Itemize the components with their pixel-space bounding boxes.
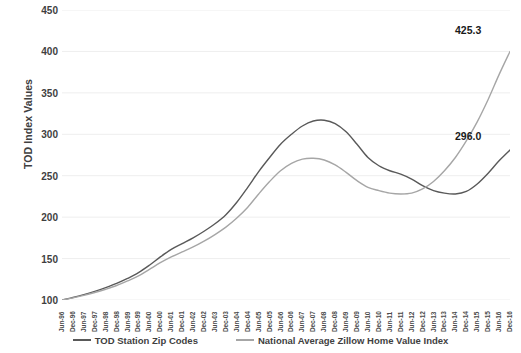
y-axis-tick: 100 [26,295,58,306]
x-axis-tick: Jun-13 [430,312,437,332]
x-axis-tick: Jun-96 [58,312,65,332]
x-axis-tick: Jun-02 [189,312,196,332]
x-axis-tick: Jun-11 [386,312,393,332]
x-axis-tick: Jun-12 [408,312,415,332]
x-axis-tick: Dec-07 [309,311,316,332]
x-axis-tick: Jun-97 [80,312,87,332]
x-axis-tick: Dec-10 [375,311,382,332]
y-axis-tick: 400 [26,46,58,57]
x-axis-tick: Dec-98 [113,311,120,332]
x-axis-tick: Dec-05 [266,311,273,332]
x-axis-tick: Dec-15 [484,311,491,332]
gridlines [62,10,510,300]
x-axis-tick: Dec-08 [331,311,338,332]
legend-item-tod[interactable]: TOD Station Zip Codes [73,335,198,346]
x-axis-tick: Dec-12 [419,311,426,332]
y-axis-tick: 300 [26,129,58,140]
x-axis-tick: Jun-08 [320,312,327,332]
y-axis-tick: 250 [26,170,58,181]
x-axis-tick: Jun-03 [211,312,218,332]
legend-label-national: National Average Zillow Home Value Index [258,335,448,346]
y-axis-tick: 450 [26,5,58,16]
tod-end-value-label: 425.3 [455,24,481,36]
x-axis-tick: Jun-07 [298,312,305,332]
x-axis-tick: Jun-06 [277,312,284,332]
x-axis-tick: Jun-10 [364,312,371,332]
x-axis-tick: Dec-13 [440,311,447,332]
x-axis-tick: Jun-04 [233,312,240,332]
x-axis-tick: Dec-02 [200,311,207,332]
x-axis-tick: Dec-06 [287,311,294,332]
x-axis-tick: Dec-01 [178,311,185,332]
legend-swatch-tod [73,339,91,341]
x-axis-tick: Jun-99 [124,312,131,332]
x-axis-tick: Jun-01 [167,312,174,332]
plot-area [62,10,510,300]
x-axis-tick: Jun-15 [473,312,480,332]
x-axis-tick: Dec-11 [397,312,404,332]
chart-legend: TOD Station Zip Codes National Average Z… [0,332,521,348]
line-chart: TOD Index Values 45040035030025020015010… [0,0,521,353]
x-axis-tick: Dec-97 [91,311,98,332]
x-axis-tick: Jun-09 [342,312,349,332]
x-axis-tick: Dec-14 [462,311,469,332]
x-axis-tick: Dec-09 [353,311,360,332]
national-end-value-label: 296.0 [455,130,481,142]
x-axis-tick: Dec-04 [244,311,251,332]
series-line-tod [62,120,510,300]
x-axis-tick: Dec-03 [222,311,229,332]
x-axis-tick: Dec-16 [506,311,513,332]
legend-swatch-national [236,339,254,341]
x-axis-tick: Dec-96 [69,311,76,332]
legend-label-tod: TOD Station Zip Codes [95,335,198,346]
x-axis-tick: Jun-05 [255,312,262,332]
x-axis-tick: Jun-00 [145,312,152,332]
y-axis-tick: 350 [26,87,58,98]
x-axis-tick: Jun-14 [451,312,458,332]
legend-item-national[interactable]: National Average Zillow Home Value Index [236,335,448,346]
x-axis-tick: Jun-98 [102,312,109,332]
x-axis-tick: Dec-99 [134,311,141,332]
plot-svg [62,10,510,300]
y-axis-tick-labels: 450400350300250200150100 [26,0,58,353]
y-axis-tick: 150 [26,253,58,264]
x-axis-tick-labels: Jun-96Dec-96Jun-97Dec-97Jun-98Dec-98Jun-… [62,300,510,332]
x-axis-tick: Jun-16 [495,312,502,332]
x-axis-tick: Dec-00 [156,311,163,332]
y-axis-tick: 200 [26,212,58,223]
